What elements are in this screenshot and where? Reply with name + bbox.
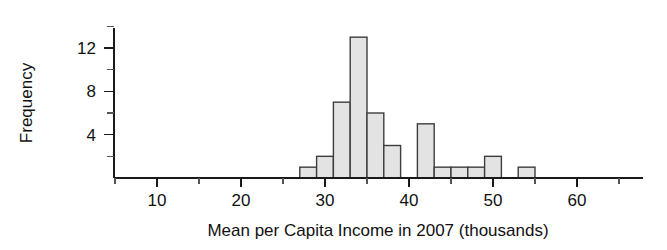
histogram-bar — [518, 167, 535, 178]
histogram-bar — [317, 156, 334, 178]
histogram-bar — [300, 167, 317, 178]
histogram-bar — [333, 102, 350, 178]
y-axis-title: Frequency — [17, 62, 36, 143]
x-tick-label: 30 — [316, 191, 335, 210]
bar-series — [300, 37, 535, 178]
histogram-bar — [417, 124, 434, 178]
x-tick-label: 10 — [148, 191, 167, 210]
chart-canvas: 102030405060 4812 Mean per Capita Income… — [0, 0, 667, 250]
x-tick-label: 40 — [400, 191, 419, 210]
histogram-bar — [350, 37, 367, 178]
y-tick-label: 8 — [87, 82, 96, 101]
histogram-figure: 102030405060 4812 Mean per Capita Income… — [0, 0, 667, 250]
x-axis-title: Mean per Capita Income in 2007 (thousand… — [207, 221, 548, 240]
x-tick-label: 60 — [568, 191, 587, 210]
histogram-bar — [384, 146, 401, 179]
y-axis-major-ticks — [104, 48, 114, 135]
x-axis-tick-labels: 102030405060 — [148, 191, 587, 210]
histogram-bar — [485, 156, 502, 178]
y-tick-label: 12 — [77, 39, 96, 58]
y-axis-tick-labels: 4812 — [77, 39, 96, 145]
histogram-bar — [367, 113, 384, 178]
x-tick-label: 20 — [232, 191, 251, 210]
y-tick-label: 4 — [87, 126, 96, 145]
histogram-bar — [468, 167, 485, 178]
histogram-bar — [451, 167, 468, 178]
x-axis-minor-ticks — [115, 178, 619, 184]
x-tick-label: 50 — [484, 191, 503, 210]
histogram-bar — [434, 167, 451, 178]
